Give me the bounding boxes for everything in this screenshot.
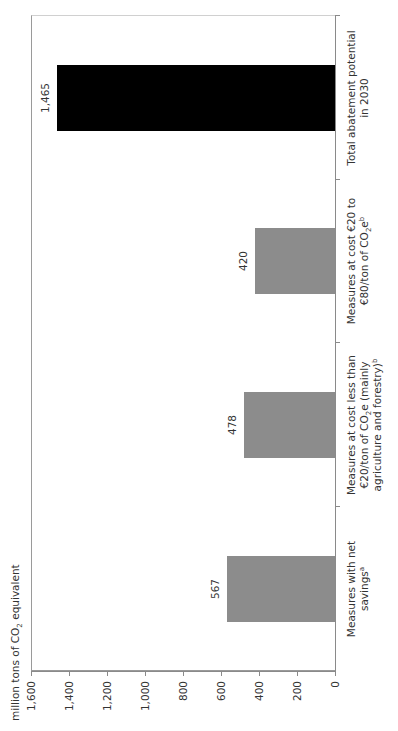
bar-value-label: 567 — [209, 569, 221, 609]
category-label-line: savingsa — [358, 507, 371, 671]
category-tick — [335, 15, 340, 16]
value-axis-tick-label: 400 — [253, 681, 265, 721]
category-label-line: Total abatement potential — [345, 16, 358, 180]
y-axis-title: million tons of CO2 equivalent — [9, 564, 21, 721]
value-axis-tick-label: 200 — [291, 681, 303, 721]
value-axis-tick — [259, 671, 260, 676]
category-label-line: Measures at cost €20 to — [345, 179, 358, 343]
bar-value-label: 1,465 — [39, 78, 51, 118]
y-axis-title-text: million tons of CO — [9, 628, 21, 721]
category-label: Measures with netsavingsa — [345, 507, 371, 671]
value-axis-tick — [31, 671, 32, 676]
category-label: Total abatement potentialin 2030 — [345, 16, 371, 180]
bar-value-label: 420 — [237, 241, 249, 281]
value-axis-tick-label: 1,600 — [25, 681, 37, 721]
value-axis-tick — [183, 671, 184, 676]
value-axis-tick — [107, 671, 108, 676]
category-tick — [335, 506, 340, 507]
value-axis-tick-label: 0 — [329, 681, 341, 721]
category-label: Measures at cost €20 to€80/ton of CO2eb — [345, 179, 371, 343]
category-label-line: Measures with net — [345, 507, 358, 671]
category-label-line: €20/ton of CO2e (mainly — [358, 343, 371, 507]
value-axis-tick — [145, 671, 146, 676]
value-axis-tick-label: 800 — [177, 681, 189, 721]
value-axis-tick-label: 1,200 — [101, 681, 113, 721]
value-axis-tick — [297, 671, 298, 676]
value-axis-tick-label: 1,400 — [63, 681, 75, 721]
category-tick — [335, 342, 340, 343]
value-axis-tick — [69, 671, 70, 676]
bar-1 — [227, 556, 335, 622]
bar-2 — [244, 392, 335, 458]
rotated-chart-figure: million tons of CO2 equivalent 020040060… — [0, 0, 398, 731]
bar-value-label: 478 — [226, 405, 238, 445]
category-tick — [335, 179, 340, 180]
category-label: Measures at cost less than€20/ton of CO2… — [345, 343, 384, 507]
value-axis-tick — [221, 671, 222, 676]
bar-3 — [255, 228, 335, 294]
y-axis-title-subscript: 2 — [16, 623, 24, 627]
y-axis-title-suffix: equivalent — [9, 564, 21, 623]
bar-4 — [57, 65, 335, 131]
category-label-line: Measures at cost less than — [345, 343, 358, 507]
value-axis-tick-label: 600 — [215, 681, 227, 721]
category-axis-line — [335, 15, 336, 675]
category-label-line: in 2030 — [358, 16, 371, 180]
value-axis-tick — [335, 671, 336, 676]
category-label-line: agriculture and forestry)b — [371, 343, 384, 507]
value-axis-tick-label: 1,000 — [139, 681, 151, 721]
category-label-line: €80/ton of CO2eb — [358, 179, 371, 343]
